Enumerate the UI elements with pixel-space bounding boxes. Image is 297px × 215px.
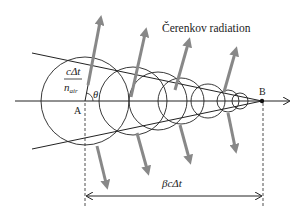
radiation-arrows-lower <box>97 113 235 183</box>
radius-label-numerator: cΔt <box>66 65 81 77</box>
cone-lower-line <box>32 101 262 149</box>
radius-label-subscript: air <box>70 87 78 95</box>
radiation-arrow <box>88 22 100 85</box>
radiation-arrow <box>228 113 235 147</box>
radius-label-denominator: nair <box>64 81 78 95</box>
point-b-label: B <box>259 86 266 97</box>
radiation-arrow <box>175 44 188 90</box>
radiation-arrow <box>131 34 145 97</box>
radiation-arrow <box>180 125 189 158</box>
point-b-dot <box>260 99 264 103</box>
angle-label: θ <box>93 89 98 100</box>
radiation-arrow <box>137 133 147 169</box>
cherenkov-diagram: Čerenkov radiation A B θ cΔt nair βcΔt <box>0 0 297 215</box>
title-label: Čerenkov radiation <box>162 21 251 34</box>
point-a-label: A <box>74 105 82 116</box>
distance-label: βcΔt <box>161 177 183 189</box>
radiation-arrow <box>224 53 235 92</box>
radiation-arrow <box>97 146 106 183</box>
